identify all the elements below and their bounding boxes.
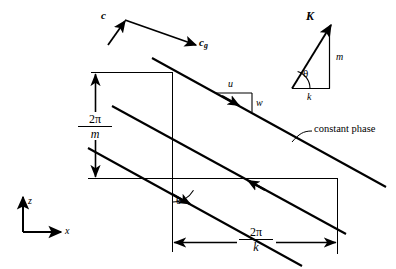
wavevector-label: K [306,10,314,22]
phase-velocity-label: c [101,10,106,21]
wavenumber-k-label: k [307,92,311,102]
phase-line-middle-arrow [248,181,265,191]
group-velocity-label: cg [199,37,208,50]
horizontal-dimension-numerator: 2π [239,226,273,239]
wavevector-K-arrow [292,25,331,89]
vertical-dimension-label: 2π m [78,113,112,140]
axis-z-label: z [28,196,32,206]
angle-theta-triangle-label: θ [303,68,308,79]
constant-phase-label: constant phase [314,124,376,135]
angle-theta-main-label: θ [176,195,181,206]
horizontal-dimension-denominator: k [239,241,273,254]
vertical-dimension-numerator: 2π [78,113,112,126]
phase-velocity-vector [108,21,125,45]
diagram-canvas [0,0,396,269]
axis-x-label: x [65,226,69,236]
internal-wave-diagram: c cg K m k θ θ u w constant phase z x 2π… [0,0,396,269]
wavenumber-m-label: m [336,52,343,62]
group-velocity-vector [125,20,196,45]
constant-phase-line-middle [112,106,346,234]
group-velocity-subscript: g [204,41,208,50]
phase-line-upper-arrow [222,96,239,106]
velocity-u-label: u [228,79,233,89]
velocity-w-label: w [256,98,263,108]
horizontal-dimension-label: 2π k [239,226,273,253]
vertical-dimension-denominator: m [78,128,112,141]
